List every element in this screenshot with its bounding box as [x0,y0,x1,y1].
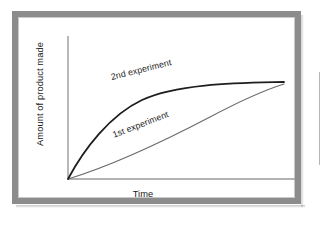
chart-screenshot: Amount of product made Time 2nd experime… [0,0,328,225]
chart-canvas [18,17,295,198]
x-axis-title: Time [18,189,268,199]
page-right-rule [319,72,320,165]
plot-area: Amount of product made Time 2nd experime… [18,17,307,210]
figure-frame: Amount of product made Time 2nd experime… [12,11,301,204]
y-axis-title: Amount of product made [35,39,45,149]
